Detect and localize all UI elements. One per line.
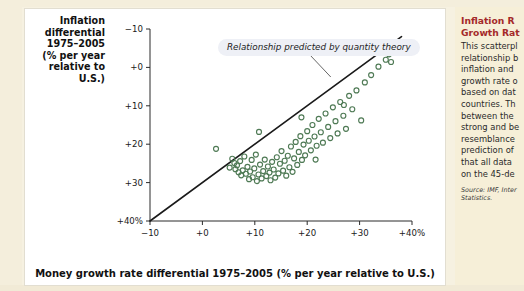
data-point [299, 157, 304, 162]
side-note-source: Source: IMF, Inter Statistics. [461, 186, 520, 202]
y-tick-label: +30 [125, 178, 143, 188]
data-point [249, 157, 254, 162]
x-tick-label: +10 [246, 228, 264, 238]
data-point [290, 169, 295, 174]
data-point [285, 153, 290, 158]
data-point [383, 57, 388, 62]
data-point [292, 156, 297, 161]
data-point [347, 93, 352, 98]
plot-area: +40%+30+20+10+0−10−10+0+10+20+30+40% [132, 25, 422, 243]
data-point [330, 105, 335, 110]
data-point [341, 113, 346, 118]
data-point [252, 166, 257, 171]
figure-root: Inflation differential 1975–2005 (% per … [0, 0, 524, 291]
data-point [270, 159, 275, 164]
side-note-panel: Inflation R Growth Rat This scatterpl re… [455, 7, 524, 285]
data-point [343, 126, 348, 131]
data-point [242, 154, 247, 159]
data-point [323, 111, 328, 116]
top-margin-strip [0, 0, 524, 7]
x-tick-label: +40% [399, 228, 425, 238]
data-point [295, 162, 300, 167]
data-point [350, 107, 355, 112]
x-tick-label: +30 [351, 228, 369, 238]
data-point [341, 103, 346, 108]
data-point [369, 73, 374, 78]
data-point [227, 165, 232, 170]
data-point [299, 115, 304, 120]
data-point [328, 136, 333, 141]
data-point [298, 134, 303, 139]
data-point [253, 152, 258, 157]
y-tick-label: +40% [117, 216, 143, 226]
data-point [268, 178, 273, 183]
data-point [287, 165, 292, 170]
scatter-plot-svg [132, 25, 422, 243]
y-axis-title: Inflation differential 1975–2005 (% per … [27, 15, 105, 85]
data-point [333, 119, 338, 124]
data-point [254, 179, 259, 184]
data-point [306, 138, 311, 143]
data-point [301, 142, 306, 147]
y-tick-label: +10 [125, 101, 143, 111]
data-point [312, 134, 317, 139]
data-point [256, 129, 261, 134]
bottom-margin-strip [0, 285, 524, 291]
data-point [261, 169, 266, 174]
quantity-theory-callout: Relationship predicted by quantity theor… [218, 39, 420, 56]
data-point [265, 164, 270, 169]
data-point [262, 157, 267, 162]
data-point [279, 149, 284, 154]
data-point [238, 159, 243, 164]
y-tick-label: −10 [125, 24, 143, 34]
data-point [276, 171, 281, 176]
data-point [313, 157, 318, 162]
data-point [359, 118, 364, 123]
data-point [303, 153, 308, 158]
left-margin-strip [0, 0, 22, 291]
data-point [362, 80, 367, 85]
data-point [376, 64, 381, 69]
x-axis-title: Money growth rate differential 1975–2005… [25, 268, 445, 279]
data-point [282, 158, 287, 163]
data-point [314, 143, 319, 148]
data-point [271, 167, 276, 172]
side-note-body: This scatterpl relationship b inflation … [461, 41, 520, 180]
x-tick-label: +0 [196, 228, 209, 238]
data-point [354, 88, 359, 93]
y-tick-label: +0 [130, 62, 143, 72]
data-point [214, 146, 219, 151]
data-point [293, 139, 298, 144]
data-point [281, 168, 286, 173]
side-note-title: Inflation R Growth Rat [461, 15, 520, 38]
data-point [284, 173, 289, 178]
x-tick-label: −10 [141, 228, 159, 238]
data-point [288, 144, 293, 149]
y-tick-label: +20 [125, 139, 143, 149]
data-point [318, 130, 323, 135]
data-point [308, 148, 313, 153]
data-point [320, 140, 325, 145]
data-point [258, 162, 263, 167]
data-point [277, 161, 282, 166]
data-point [310, 123, 315, 128]
x-tick-label: +20 [298, 228, 316, 238]
data-point [316, 116, 321, 121]
chart-panel: Inflation differential 1975–2005 (% per … [25, 9, 445, 285]
data-point [335, 131, 340, 136]
data-point [389, 60, 394, 65]
data-point [296, 149, 301, 154]
data-point [305, 129, 310, 134]
data-point [326, 124, 331, 129]
data-point [274, 155, 279, 160]
